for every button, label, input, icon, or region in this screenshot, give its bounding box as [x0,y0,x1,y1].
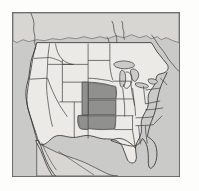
figure-root [0,0,199,191]
united-states-map [13,13,179,176]
scan-grain-overlay [13,13,179,176]
map-panel [12,12,180,177]
